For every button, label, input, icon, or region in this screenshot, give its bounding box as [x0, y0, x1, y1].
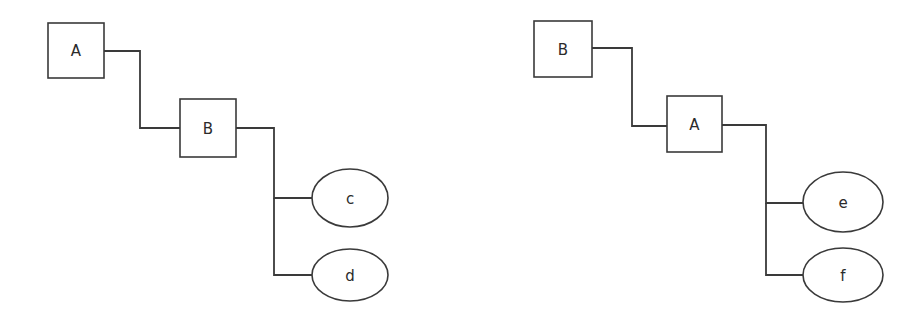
- node-right-a[interactable]: A: [667, 96, 722, 152]
- node-left-d-label: d: [345, 267, 355, 285]
- right-tree: B A e f: [534, 21, 883, 302]
- diagram-canvas: A B c d B A: [0, 0, 923, 322]
- connector-right-a-to-f: [766, 203, 803, 275]
- node-right-a-label: A: [689, 116, 700, 134]
- node-right-f-label: f: [840, 267, 846, 285]
- node-right-f[interactable]: f: [803, 248, 883, 302]
- connector-left-a-to-b: [104, 51, 180, 128]
- node-right-e[interactable]: e: [803, 172, 883, 232]
- connector-left-b-to-c: [236, 128, 312, 198]
- left-tree: A B c d: [48, 23, 388, 301]
- connector-left-b-to-d: [274, 198, 312, 275]
- node-left-b-label: B: [203, 120, 213, 138]
- node-left-d[interactable]: d: [312, 249, 388, 301]
- node-left-a-label: A: [71, 42, 82, 60]
- node-left-a[interactable]: A: [48, 23, 104, 78]
- node-right-e-label: e: [838, 194, 847, 212]
- node-right-b[interactable]: B: [534, 21, 592, 77]
- node-left-c-label: c: [346, 190, 354, 208]
- connector-right-a-to-e: [722, 125, 803, 203]
- node-right-b-label: B: [558, 41, 568, 59]
- node-left-c[interactable]: c: [312, 169, 388, 227]
- node-left-b[interactable]: B: [180, 99, 236, 157]
- connector-right-b-to-a: [592, 48, 667, 126]
